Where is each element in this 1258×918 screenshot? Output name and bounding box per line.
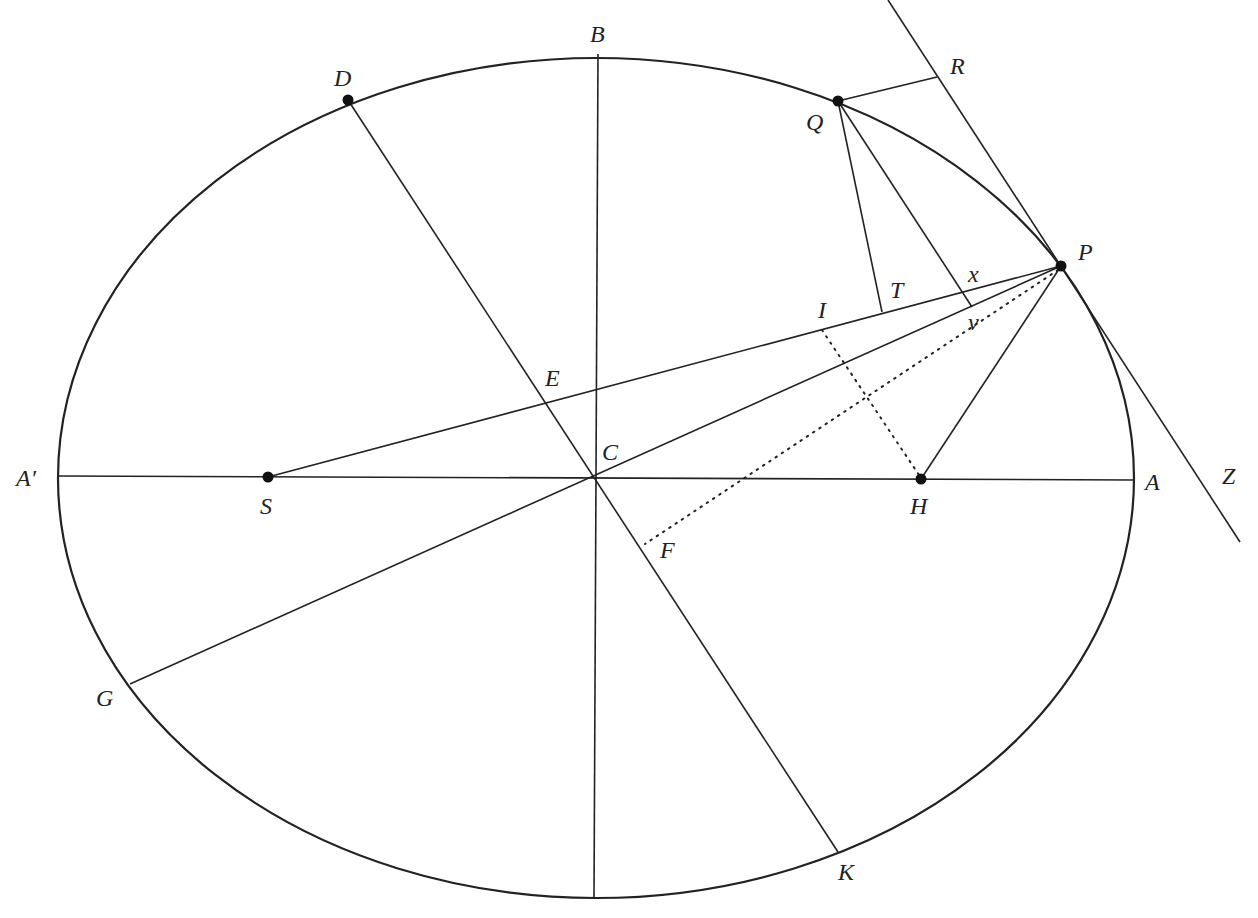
label-b: B bbox=[590, 21, 605, 47]
line-sp bbox=[268, 266, 1061, 477]
label-e: E bbox=[544, 365, 560, 391]
point-d bbox=[343, 95, 354, 106]
label-z: Z bbox=[1222, 463, 1236, 489]
label-k: K bbox=[837, 859, 856, 885]
point-q bbox=[833, 96, 844, 107]
dotted-line-pf bbox=[645, 270, 1058, 544]
line-qr bbox=[838, 77, 937, 101]
label-c: C bbox=[602, 439, 619, 465]
ellipse-diagram: A′ A B C D E F G H I K P Q R S T v x Z bbox=[0, 0, 1258, 918]
label-x: x bbox=[967, 261, 979, 287]
label-s: S bbox=[260, 493, 272, 519]
point-p bbox=[1056, 261, 1067, 272]
label-t: T bbox=[890, 277, 905, 303]
label-q: Q bbox=[806, 109, 823, 135]
point-s bbox=[263, 472, 274, 483]
label-p: P bbox=[1077, 239, 1093, 265]
label-a-prime: A′ bbox=[14, 465, 37, 491]
label-v: v bbox=[968, 309, 979, 335]
label-i: I bbox=[817, 297, 827, 323]
dotted-line-ih bbox=[822, 330, 921, 478]
label-g: G bbox=[96, 685, 113, 711]
line-qv bbox=[838, 101, 972, 307]
label-r: R bbox=[949, 53, 965, 79]
label-d: D bbox=[333, 65, 351, 91]
tangent-line bbox=[888, 0, 1240, 542]
label-a: A bbox=[1143, 469, 1160, 495]
label-h: H bbox=[909, 493, 929, 519]
label-f: F bbox=[659, 537, 675, 563]
point-h bbox=[916, 474, 927, 485]
line-qt bbox=[838, 101, 882, 312]
